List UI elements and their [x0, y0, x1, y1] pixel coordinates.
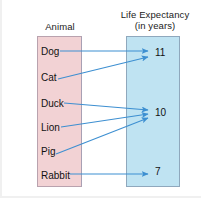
domain-heading: Animal [22, 21, 98, 32]
range-heading-line2: (in years) [112, 20, 198, 31]
range-element-10: 10 [155, 108, 166, 118]
range-set-box [126, 36, 180, 187]
domain-set-box [37, 36, 82, 187]
domain-element-lion: Lion [41, 123, 60, 133]
domain-element-rabbit: Rabbit [41, 171, 70, 181]
domain-element-pig: Pig [41, 147, 55, 157]
scan-edge-bottom [0, 196, 201, 198]
domain-element-cat: Cat [41, 73, 57, 83]
range-heading-line1: Life Expectancy [121, 9, 190, 20]
scan-edge-left [0, 0, 2, 198]
range-element-11: 11 [155, 48, 165, 58]
range-heading: Life Expectancy (in years) [112, 9, 198, 31]
mapping-diagram: Animal Life Expectancy (in years) Dog Ca… [0, 0, 201, 198]
range-element-7: 7 [155, 167, 161, 177]
domain-element-duck: Duck [41, 99, 64, 109]
domain-element-dog: Dog [41, 47, 59, 57]
